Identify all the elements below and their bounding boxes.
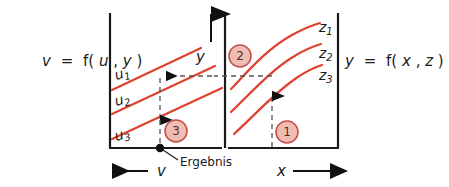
curve-label-u3: u3 bbox=[113, 124, 132, 145]
step-2-number: 2 bbox=[236, 49, 244, 63]
result-label: Ergebnis bbox=[180, 155, 232, 169]
result-leader-line bbox=[163, 150, 178, 160]
right-curve-labels: z1 z2 z3 bbox=[318, 19, 333, 85]
step-marker-2: 2 bbox=[229, 45, 251, 67]
curve-z3 bbox=[234, 65, 322, 134]
step-marker-3: 3 bbox=[165, 120, 187, 142]
result-dot bbox=[156, 144, 164, 152]
curve-label-u2: u2 bbox=[113, 89, 132, 110]
left-curve-labels: u1 u2 u3 bbox=[113, 63, 132, 145]
diagram-canvas: v = f( u , y ) y = f( x , z ) u1 u2 u3 z… bbox=[0, 0, 449, 187]
v-axis-label: v bbox=[157, 162, 167, 180]
curve-label-z1: z1 bbox=[318, 19, 333, 37]
right-equation: y = f( x , z ) bbox=[344, 52, 444, 70]
curve-label-z2: z2 bbox=[318, 45, 333, 63]
y-axis-label: y bbox=[195, 48, 206, 66]
step-3-number: 3 bbox=[172, 124, 180, 138]
result-marker bbox=[156, 144, 178, 160]
left-equation: v = f( u , y ) bbox=[42, 52, 142, 70]
x-axis-label: x bbox=[276, 162, 286, 180]
step-1-number: 1 bbox=[283, 125, 291, 139]
step-marker-1: 1 bbox=[276, 121, 298, 143]
curve-label-z3: z3 bbox=[318, 67, 333, 85]
nomogram-figure: v = f( u , y ) y = f( x , z ) u1 u2 u3 z… bbox=[0, 0, 449, 187]
right-curve-family bbox=[231, 23, 322, 134]
panel-frames bbox=[109, 13, 339, 148]
